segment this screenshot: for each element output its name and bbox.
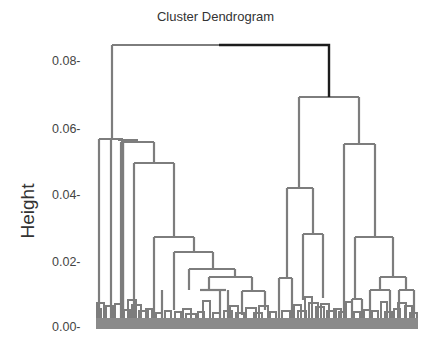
highlighted-branch	[219, 45, 329, 97]
dendrogram-branches	[99, 45, 414, 318]
dendrogram-plot	[0, 0, 431, 350]
